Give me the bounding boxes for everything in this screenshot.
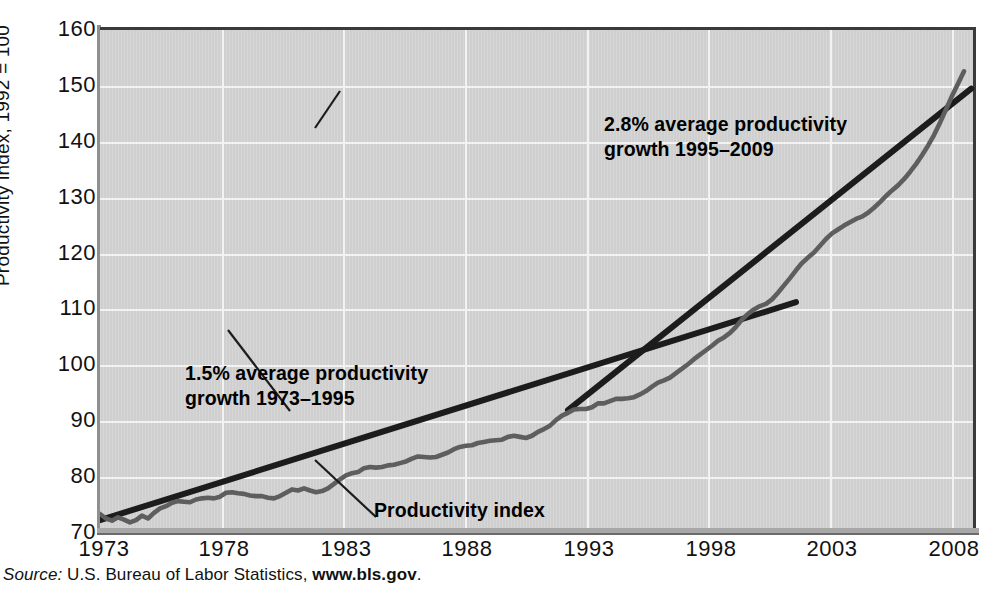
y-tick-110: 110 xyxy=(4,295,96,321)
y-tick-120: 120 xyxy=(4,240,96,266)
leader-line-growth-1995 xyxy=(315,91,340,128)
x-tick-1998: 1998 xyxy=(686,536,737,562)
plot-bottom-edge xyxy=(97,528,979,535)
annotation-productivity-index: Productivity index xyxy=(374,498,545,523)
productivity-chart-figure: 160 150 140 130 120 110 100 90 80 70 197… xyxy=(0,0,997,596)
y-tick-80: 80 xyxy=(4,463,96,489)
plot-area: 160 150 140 130 120 110 100 90 80 70 xyxy=(100,27,976,530)
source-note: Source: U.S. Bureau of Labor Statistics,… xyxy=(3,565,422,585)
annotation-growth-1995-2009: 2.8% average productivity growth 1995–20… xyxy=(604,112,847,162)
x-tick-1983: 1983 xyxy=(321,536,372,562)
x-tick-1988: 1988 xyxy=(442,536,493,562)
x-tick-2008: 2008 xyxy=(929,536,980,562)
source-url[interactable]: www.bls.gov xyxy=(312,565,416,584)
x-tick-1978: 1978 xyxy=(199,536,250,562)
y-tick-150: 150 xyxy=(4,72,96,98)
y-tick-90: 90 xyxy=(4,407,96,433)
x-tick-1993: 1993 xyxy=(564,536,615,562)
y-tick-140: 140 xyxy=(4,128,96,154)
y-tick-labels: 160 150 140 130 120 110 100 90 80 70 xyxy=(4,30,96,533)
y-tick-160: 160 xyxy=(4,16,96,42)
series-plot-svg xyxy=(100,30,976,533)
source-period: . xyxy=(417,565,422,584)
x-tick-2003: 2003 xyxy=(807,536,858,562)
trend-line-1973-1995 xyxy=(100,302,796,520)
y-tick-100: 100 xyxy=(4,351,96,377)
y-tick-130: 130 xyxy=(4,184,96,210)
x-tick-1973: 1973 xyxy=(79,536,130,562)
annotation-growth-1973-1995: 1.5% average productivity growth 1973–19… xyxy=(185,361,428,411)
source-text: U.S. Bureau of Labor Statistics, xyxy=(62,565,312,584)
source-label: Source: xyxy=(3,565,62,584)
y-axis-title: Productivity index, 1992 = 100 xyxy=(0,25,14,286)
